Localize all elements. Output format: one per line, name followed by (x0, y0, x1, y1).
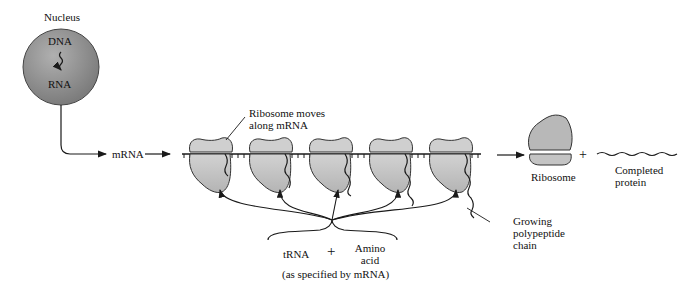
brace-icon (268, 220, 397, 240)
trna-arrows (220, 190, 456, 220)
ribosome-moves-leader (226, 117, 245, 140)
ribosome-3 (309, 138, 352, 196)
mrna-export-arrow-icon (61, 105, 106, 154)
growing-chain-label-3: chain (513, 239, 537, 252)
ribosome-label: Ribosome (531, 171, 576, 184)
plus-right: + (579, 148, 587, 161)
ribosome-2 (249, 138, 292, 193)
trna-label: tRNA (283, 248, 309, 261)
released-ribosome (528, 115, 572, 165)
ribosome-4 (369, 138, 413, 206)
ribosome-moves-label-2: along mRNA (249, 119, 308, 132)
dna-label: DNA (48, 35, 72, 48)
ribosome-5 (429, 138, 474, 218)
completed-protein-label-2: protein (615, 176, 646, 189)
ribosome-1 (189, 138, 232, 193)
nucleus-label: Nucleus (44, 11, 80, 24)
plus-bottom: + (327, 245, 335, 258)
specified-label: (as specified by mRNA) (282, 268, 389, 281)
mrna-label: mRNA (112, 148, 144, 161)
rna-label: RNA (48, 78, 71, 91)
completed-protein-icon (597, 153, 677, 156)
amino-acid-label-2: acid (350, 254, 390, 267)
growing-chain-leader (467, 208, 490, 222)
